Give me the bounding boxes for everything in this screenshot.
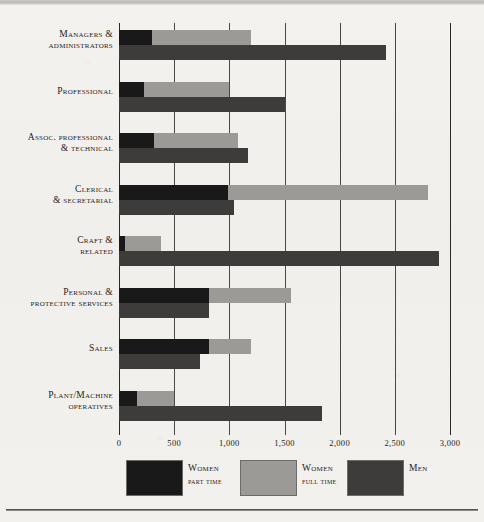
x-axis-tick-label: 3,000 (440, 438, 461, 448)
category-label: Craft &related (0, 235, 113, 257)
bar-group (119, 126, 450, 178)
bar-segment-women-part-time (119, 288, 209, 303)
x-axis-tick-label: 500 (167, 438, 181, 448)
category-label-line1: Craft & (0, 235, 113, 246)
x-axis-tick-label: 0 (117, 438, 122, 448)
legend-swatch (240, 460, 297, 496)
category-label-line1: Clerical (0, 184, 113, 195)
bar-group (119, 332, 450, 384)
bar-segment-women-full-time (209, 339, 251, 354)
bar-group (119, 281, 450, 333)
axis-frame-line (450, 23, 451, 435)
bar-segment-women-part-time (119, 133, 154, 148)
category-label-line1: Sales (0, 343, 113, 354)
bar-group (119, 384, 450, 436)
bar-men (119, 200, 234, 215)
bar-men (119, 148, 248, 163)
legend-label: Men (409, 462, 428, 475)
bar-men (119, 97, 285, 112)
category-label: Assoc. professional& technical (0, 132, 113, 154)
bar-segment-women-full-time (154, 133, 238, 148)
bar-men (119, 406, 322, 421)
bar-segment-women-part-time (119, 82, 144, 97)
bar-segment-women-full-time (228, 185, 428, 200)
bar-group (119, 75, 450, 127)
bar-group (119, 229, 450, 281)
category-axis-labels: Managers &administratorsProfessionalAsso… (0, 23, 113, 435)
x-axis-tick-label: 1,000 (219, 438, 240, 448)
category-label-line1: Professional (0, 86, 113, 97)
category-label: Sales (0, 343, 113, 354)
category-label: Plant/Machineoperatives (0, 390, 113, 412)
x-axis-tick-label: 2,500 (385, 438, 406, 448)
top-rule (0, 0, 484, 5)
bar-group (119, 178, 450, 230)
category-label: Personal &protective services (0, 287, 113, 309)
category-label-line2: operatives (0, 401, 113, 412)
category-label-line2: & technical (0, 143, 113, 154)
category-label-line1: Assoc. professional (0, 132, 113, 143)
chart-plot-area (119, 23, 450, 435)
category-label-line2: protective services (0, 298, 113, 309)
legend-label: Womenpart time (188, 462, 222, 488)
category-label-line2: related (0, 246, 113, 257)
bar-segment-women-part-time (119, 30, 152, 45)
x-axis-tick-label: 2,000 (329, 438, 350, 448)
bar-segment-women-full-time (125, 236, 161, 251)
chart-legend: Womenpart timeWomenfull timeMen (0, 460, 484, 502)
legend-label-line2: full time (302, 475, 337, 488)
bar-group (119, 23, 450, 75)
bar-segment-women-part-time (119, 391, 137, 406)
bar-men (119, 251, 439, 266)
category-label: Clerical& secretarial (0, 184, 113, 206)
category-label-line2: & secretarial (0, 195, 113, 206)
category-label-line1: Plant/Machine (0, 390, 113, 401)
bar-segment-women-part-time (119, 339, 209, 354)
bottom-rule (6, 509, 478, 511)
bar-men (119, 354, 200, 369)
legend-label: Womenfull time (302, 462, 337, 488)
category-label: Managers &administrators (0, 29, 113, 51)
bar-men (119, 303, 209, 318)
x-axis-tick-label: 1,500 (274, 438, 295, 448)
bar-segment-women-full-time (144, 82, 229, 97)
x-axis-tick-labels: 05001,0001,5002,0002,5003,000 (0, 438, 484, 452)
category-label-line1: Personal & (0, 287, 113, 298)
legend-label-line2: part time (188, 475, 222, 488)
category-label: Professional (0, 86, 113, 97)
bar-segment-women-full-time (152, 30, 251, 45)
bar-segment-women-part-time (119, 185, 228, 200)
bar-segment-women-full-time (137, 391, 175, 406)
bar-segment-women-full-time (209, 288, 291, 303)
bar-men (119, 45, 386, 60)
legend-swatch (126, 460, 183, 496)
category-label-line2: administrators (0, 40, 113, 51)
legend-swatch (347, 460, 404, 496)
category-label-line1: Managers & (0, 29, 113, 40)
